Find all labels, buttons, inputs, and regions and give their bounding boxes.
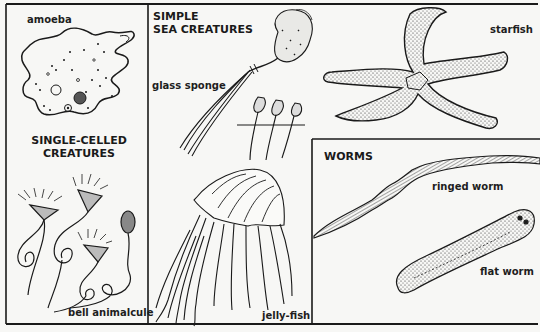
- label-jellyfish: jelly-fish: [262, 310, 310, 321]
- label-glass-sponge: glass sponge: [152, 80, 226, 91]
- label-bell-animalcule: bell animalcule: [68, 307, 153, 318]
- heading-simple-sea-line2: SEA CREATURES: [153, 23, 253, 36]
- label-ringed-worm: ringed worm: [432, 181, 504, 192]
- heading-single-celled: SINGLE-CELLED CREATURES: [20, 134, 138, 160]
- illustration-artwork: [0, 0, 540, 332]
- heading-simple-sea-creatures: SIMPLE SEA CREATURES: [153, 10, 253, 36]
- label-starfish: starfish: [490, 24, 533, 35]
- bell-animalcule-drawing: [18, 174, 135, 312]
- heading-single-celled-line2: CREATURES: [20, 147, 138, 160]
- illustration-frame: amoeba SINGLE-CELLED CREATURES bell anim…: [0, 0, 540, 332]
- flat-worm-drawing: [396, 210, 534, 293]
- heading-single-celled-line1: SINGLE-CELLED: [20, 134, 138, 147]
- jellyfish-drawing: [156, 169, 292, 326]
- heading-worms: WORMS: [324, 150, 373, 163]
- label-flat-worm: flat worm: [480, 266, 534, 277]
- heading-simple-sea-line1: SIMPLE: [153, 10, 253, 23]
- starfish-drawing: [324, 8, 508, 129]
- small-sponges-drawing: [237, 97, 305, 160]
- label-amoeba: amoeba: [27, 14, 72, 25]
